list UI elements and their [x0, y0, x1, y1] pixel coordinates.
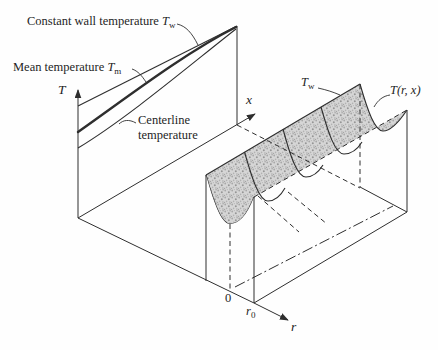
- front-slice-edges: [78, 175, 288, 320]
- surface-function-label: T(r, x): [390, 83, 421, 98]
- centerline-line2: temperature: [138, 128, 198, 142]
- wall-surface-sub: w: [308, 81, 315, 91]
- hidden-edge-diagonal-2: [288, 192, 327, 224]
- centerline-temperature-label: Centerlinetemperature: [138, 113, 198, 143]
- constant-wall-text: Constant wall temperature: [27, 14, 162, 28]
- floor-plane: [254, 212, 407, 303]
- mean-temperature-text: Mean temperature: [13, 60, 107, 74]
- x-axis-label: x: [246, 92, 252, 107]
- tube-axis-centerline: [235, 206, 393, 287]
- hidden-edge-diagonal-1: [258, 196, 299, 232]
- constant-wall-sub: w: [169, 20, 176, 30]
- x-axis-letter: x: [246, 92, 252, 107]
- figure-canvas: Constant wall temperature Tw Mean temper…: [0, 0, 438, 350]
- t-axis-letter: T: [58, 82, 66, 97]
- wall-radius-label: r0: [246, 304, 255, 319]
- centerline-line1: Centerline: [138, 113, 190, 127]
- surface-fill: [206, 84, 407, 224]
- mean-temperature-label: Mean temperature Tm: [13, 60, 121, 75]
- surface-function-text: T(r, x): [390, 83, 421, 97]
- box-back-bottom-edge: [360, 187, 407, 212]
- wall-surface-label: Tw: [301, 75, 314, 90]
- origin-label: 0: [225, 291, 231, 306]
- floor-right-edge: [254, 212, 407, 303]
- t-axis-label: T: [58, 82, 66, 97]
- r-axis: [254, 303, 288, 320]
- centerline-leader: [119, 120, 136, 124]
- wall-surface-var: T: [301, 75, 308, 89]
- constant-wall-var: T: [162, 14, 169, 28]
- line-art: [0, 0, 438, 350]
- wall-radius-sub: 0: [251, 310, 256, 320]
- constant-wall-temperature-label: Constant wall temperature Tw: [27, 14, 175, 29]
- origin-text: 0: [225, 291, 231, 305]
- temperature-surface: [206, 84, 407, 224]
- surface-function-leader: [374, 95, 390, 107]
- constant-wall-leader: [177, 24, 198, 45]
- r-axis-letter: r: [291, 319, 296, 334]
- wall-surface-leader: [318, 88, 340, 95]
- r-axis-label: r: [291, 319, 296, 334]
- mean-temperature-sub: m: [114, 66, 121, 76]
